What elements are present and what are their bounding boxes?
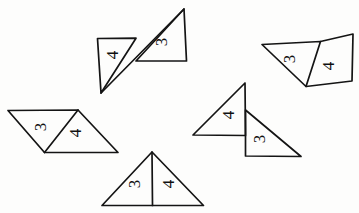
figure-top-left: 4 3 xyxy=(98,9,187,93)
figure-middle-right: 4 3 xyxy=(193,83,301,157)
figure-left: 3 4 xyxy=(8,110,118,153)
label-value: 4 xyxy=(319,61,338,70)
triangle-label-4: 4 xyxy=(219,110,238,119)
median-divider xyxy=(152,152,153,206)
triangle-label-3: 3 xyxy=(250,135,269,144)
parallelogram-outline xyxy=(8,110,118,153)
label-value: 3 xyxy=(250,135,269,144)
triangle-label-3: 3 xyxy=(31,123,50,132)
label-value: 4 xyxy=(103,50,122,59)
triangle-label-3: 3 xyxy=(125,180,144,189)
figure-canvas: 4 3 3 4 3 4 xyxy=(0,0,359,213)
drawing-canvas: 4 3 3 4 3 4 xyxy=(0,0,359,213)
triangle-label-4: 4 xyxy=(103,50,122,59)
triangle-label-4: 4 xyxy=(66,128,85,137)
triangle-label-3: 3 xyxy=(280,55,299,64)
label-value: 3 xyxy=(31,123,50,132)
label-value: 4 xyxy=(66,128,85,137)
triangle-outline xyxy=(193,83,246,136)
triangle-label-4: 4 xyxy=(319,61,338,70)
triangle-label-4: 4 xyxy=(159,179,178,188)
triangle-outline xyxy=(98,38,137,93)
triangle-label-3: 3 xyxy=(152,38,171,47)
triangle-outline xyxy=(136,9,187,61)
label-value: 4 xyxy=(219,110,238,119)
triangle-outline xyxy=(246,110,302,157)
label-value: 3 xyxy=(125,180,144,189)
label-value: 3 xyxy=(152,38,171,47)
figure-bottom: 3 4 xyxy=(102,152,204,206)
figure-top-right: 3 4 xyxy=(262,34,353,87)
label-value: 4 xyxy=(159,179,178,188)
label-value: 3 xyxy=(280,55,299,64)
